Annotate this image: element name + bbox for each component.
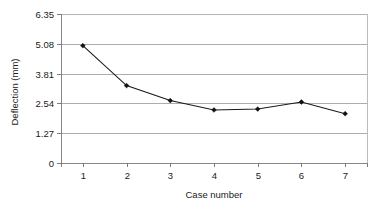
y-tick-label: 6.35 [36, 9, 55, 20]
x-tick-labels-group: 1234567 [81, 170, 348, 181]
y-tick-marks-group [57, 15, 61, 164]
y-tick-label: 2.54 [36, 98, 55, 109]
y-axis-title: Deflection (mm) [9, 58, 20, 125]
chart-container: 6.355.083.812.541.270 1234567 Case numbe… [0, 0, 379, 205]
deflection-line-chart: 6.355.083.812.541.270 1234567 Case numbe… [0, 0, 379, 205]
plot-area-background [61, 14, 367, 163]
y-tick-label: 5.08 [36, 39, 55, 50]
x-tick-label: 4 [212, 170, 217, 181]
x-tick-label: 2 [125, 170, 130, 181]
x-tick-label: 3 [168, 170, 173, 181]
y-tick-labels-group: 6.355.083.812.541.270 [36, 9, 55, 169]
x-tick-label: 6 [299, 170, 304, 181]
x-tick-label: 1 [81, 170, 86, 181]
y-tick-label: 0 [49, 158, 54, 169]
y-tick-label: 3.81 [36, 69, 55, 80]
x-tick-marks-group [62, 163, 368, 167]
x-tick-label: 5 [256, 170, 261, 181]
x-tick-label: 7 [343, 170, 348, 181]
x-axis-title: Case number [185, 189, 242, 200]
y-tick-label: 1.27 [36, 128, 55, 139]
